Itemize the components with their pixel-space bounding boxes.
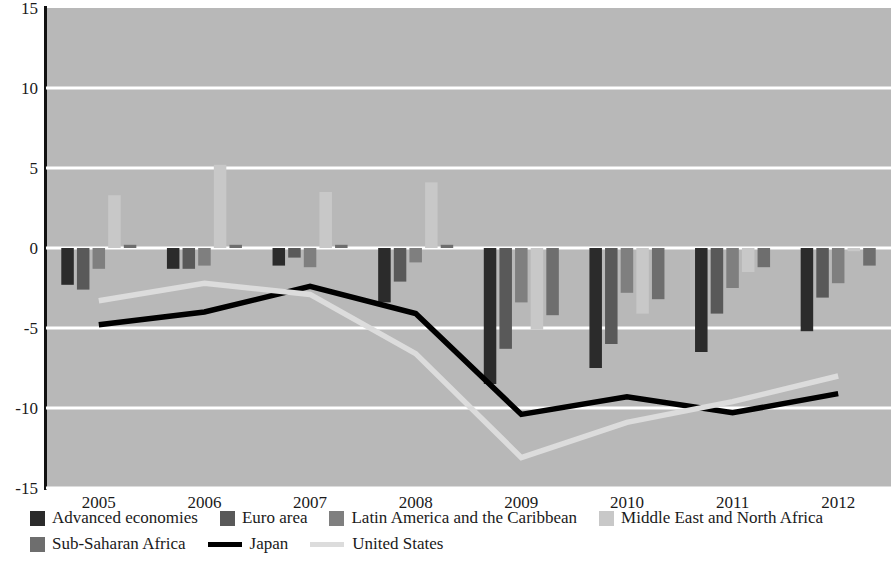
bar-middle-east-and-north-africa-2008 <box>425 182 438 248</box>
fiscal-balance-chart: 151050-5-10-15 2005200620072008200920102… <box>0 0 896 586</box>
bar-euro-area-2007 <box>288 248 301 258</box>
bar-latin-america-and-the-caribbean-2006 <box>198 248 211 266</box>
bar-euro-area-2012 <box>816 248 829 298</box>
gridline-5 <box>46 167 891 170</box>
legend-label: Japan <box>250 534 289 554</box>
legend-line-swatch-icon <box>208 542 242 547</box>
legend-line-swatch-icon <box>310 542 344 547</box>
legend-item-euro-area[interactable]: Euro area <box>220 508 308 528</box>
legend-color-swatch-icon <box>599 511 614 526</box>
legend-label: Sub-Saharan Africa <box>52 534 186 554</box>
legend-row-1: Advanced economiesEuro areaLatin America… <box>30 505 896 531</box>
legend-label: Euro area <box>242 508 308 528</box>
bar-advanced-economies-2007 <box>273 248 286 266</box>
bar-latin-america-and-the-caribbean-2005 <box>93 248 106 269</box>
gridline--15 <box>46 487 891 490</box>
bar-middle-east-and-north-africa-2005 <box>108 195 121 248</box>
bar-sub-saharan-africa-2010 <box>652 248 665 299</box>
bar-sub-saharan-africa-2006 <box>229 245 242 248</box>
legend-item-middle-east-and-north-africa[interactable]: Middle East and North Africa <box>599 508 823 528</box>
bar-latin-america-and-the-caribbean-2009 <box>515 248 528 302</box>
legend-color-swatch-icon <box>329 511 344 526</box>
gridline-10 <box>46 87 891 90</box>
bar-euro-area-2005 <box>77 248 90 290</box>
legend-item-sub-saharan-africa[interactable]: Sub-Saharan Africa <box>30 534 186 554</box>
bar-sub-saharan-africa-2007 <box>335 245 348 248</box>
bar-advanced-economies-2012 <box>801 248 814 331</box>
bar-sub-saharan-africa-2005 <box>124 245 137 248</box>
bar-middle-east-and-north-africa-2012 <box>848 248 861 251</box>
bar-sub-saharan-africa-2012 <box>863 248 876 266</box>
legend-color-swatch-icon <box>220 511 235 526</box>
bar-middle-east-and-north-africa-2006 <box>214 165 227 248</box>
bar-euro-area-2011 <box>711 248 724 314</box>
bar-euro-area-2010 <box>605 248 618 344</box>
legend-label: United States <box>352 534 443 554</box>
bar-euro-area-2008 <box>394 248 407 282</box>
legend-label: Latin America and the Caribbean <box>351 508 577 528</box>
legend-item-advanced-economies[interactable]: Advanced economies <box>30 508 198 528</box>
legend-label: Middle East and North Africa <box>621 508 823 528</box>
bar-euro-area-2009 <box>499 248 512 349</box>
bar-euro-area-2006 <box>183 248 196 269</box>
legend-color-swatch-icon <box>30 537 45 552</box>
bar-middle-east-and-north-africa-2010 <box>636 248 649 314</box>
bar-advanced-economies-2006 <box>167 248 180 269</box>
legend-item-united-states[interactable]: United States <box>310 534 443 554</box>
bar-sub-saharan-africa-2008 <box>441 245 454 248</box>
legend-label: Advanced economies <box>52 508 198 528</box>
bar-advanced-economies-2008 <box>378 248 391 302</box>
legend-item-japan[interactable]: Japan <box>208 534 289 554</box>
legend-item-latin-america-and-the-caribbean[interactable]: Latin America and the Caribbean <box>329 508 577 528</box>
bar-latin-america-and-the-caribbean-2008 <box>409 248 422 262</box>
gridline--5 <box>46 327 891 330</box>
bar-latin-america-and-the-caribbean-2012 <box>832 248 845 283</box>
bar-advanced-economies-2010 <box>589 248 602 368</box>
bar-advanced-economies-2009 <box>484 248 497 384</box>
bar-middle-east-and-north-africa-2009 <box>531 248 544 330</box>
bar-middle-east-and-north-africa-2007 <box>319 192 332 248</box>
bar-advanced-economies-2005 <box>61 248 74 285</box>
bar-sub-saharan-africa-2009 <box>546 248 559 315</box>
line-japan <box>99 286 838 414</box>
bar-sub-saharan-africa-2011 <box>758 248 771 267</box>
bar-latin-america-and-the-caribbean-2011 <box>726 248 739 288</box>
bar-latin-america-and-the-caribbean-2007 <box>304 248 317 267</box>
legend-row-2: Sub-Saharan AfricaJapanUnited States <box>30 531 896 557</box>
legend-color-swatch-icon <box>30 511 45 526</box>
chart-legend: Advanced economiesEuro areaLatin America… <box>30 505 896 557</box>
bar-advanced-economies-2011 <box>695 248 708 352</box>
bar-latin-america-and-the-caribbean-2010 <box>621 248 634 293</box>
bar-middle-east-and-north-africa-2011 <box>742 248 755 272</box>
